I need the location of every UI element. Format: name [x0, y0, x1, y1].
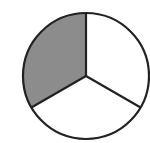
fraction-circle-diagram	[0, 0, 150, 143]
divider-lower-right	[86, 76, 141, 108]
